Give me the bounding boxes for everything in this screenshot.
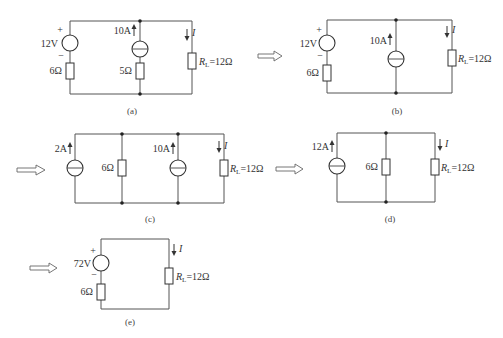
load-resistor-icon <box>188 53 196 69</box>
circuit-a-loop <box>70 21 192 94</box>
voltage-source-label: 12V <box>300 38 318 49</box>
load-resistor-icon <box>165 268 173 284</box>
arrowhead-icon <box>438 146 443 151</box>
resistor-label: 6Ω <box>307 67 319 78</box>
load-label: RL=12Ω <box>229 163 263 176</box>
transition-arrow-icon <box>17 165 45 175</box>
arrowhead-icon <box>132 24 137 29</box>
resistor-icon <box>382 159 390 175</box>
load-resistor-icon <box>220 160 228 176</box>
current-source-label: 10A <box>153 143 171 154</box>
caption-e: (e) <box>125 317 135 327</box>
node-dot <box>176 132 180 136</box>
node-dot <box>138 19 142 23</box>
current-label: I <box>178 243 183 254</box>
load-resistor-icon <box>448 50 456 66</box>
arrowhead-icon <box>330 140 335 145</box>
caption-d: (d) <box>385 214 396 224</box>
load-resistor-icon <box>431 159 439 175</box>
resistor-icon <box>323 65 331 81</box>
arrowhead-icon <box>68 142 73 147</box>
resistor-label: 5Ω <box>120 65 132 76</box>
node-dot <box>176 201 180 205</box>
arrowhead-icon <box>445 33 450 38</box>
arrowhead-icon <box>388 33 393 38</box>
load-label: RL=12Ω <box>457 53 491 66</box>
node-dot <box>384 131 388 135</box>
circuit-a: + − 12V 6Ω 10A 5Ω I RL=12Ω (a) <box>41 19 233 116</box>
caption-b: (b) <box>392 106 403 116</box>
resistor-label: 6Ω <box>81 286 93 297</box>
circuit-b: + − 12V 6Ω 10A I RL=12Ω (b) <box>300 18 492 116</box>
load-label: RL=12Ω <box>198 56 232 69</box>
arrowhead-icon <box>172 251 177 256</box>
plus-sign: + <box>57 24 63 35</box>
circuit-transformation-diagram: + − 12V 6Ω 10A 5Ω I RL=12Ω (a) + − 12V <box>0 0 503 338</box>
caption-c: (c) <box>145 214 155 224</box>
node-dot <box>138 92 142 96</box>
voltage-source-label: 12V <box>41 38 59 49</box>
arrowhead-icon <box>171 142 176 147</box>
circuit-c-loop <box>75 134 224 203</box>
arrowhead-icon <box>185 36 190 41</box>
plus-sign: + <box>316 24 322 35</box>
node-dot <box>120 132 124 136</box>
circuit-e: + − 72V 6Ω I RL=12Ω (e) <box>74 239 210 327</box>
resistor-label: 6Ω <box>50 65 62 76</box>
node-dot <box>120 201 124 205</box>
minus-sign: − <box>58 50 64 61</box>
voltage-source-label: 72V <box>74 258 92 269</box>
arrowhead-icon <box>217 148 222 153</box>
transition-arrow-icon <box>276 164 303 174</box>
minus-sign: − <box>317 50 323 61</box>
node-dot <box>384 200 388 204</box>
circuit-e-loop <box>101 239 169 309</box>
load-label: RL=12Ω <box>175 271 209 284</box>
load-label: RL=12Ω <box>440 162 474 175</box>
current-label: I <box>451 24 456 35</box>
circuit-d: 12A 6Ω I RL=12Ω (d) <box>312 131 475 224</box>
voltage-source-icon <box>319 35 335 51</box>
resistor-label: 6Ω <box>102 162 114 173</box>
circuit-c: 2A 6Ω 10A I RL=12Ω (c) <box>55 132 264 224</box>
current-source-label: 12A <box>312 141 330 152</box>
resistor-label: 6Ω <box>366 161 378 172</box>
current-label: I <box>444 138 449 149</box>
transition-arrow-icon <box>258 51 282 61</box>
current-source-label: 10A <box>114 25 132 36</box>
current-source-label: 10A <box>370 35 388 46</box>
minus-sign: − <box>91 269 97 280</box>
caption-a: (a) <box>127 106 137 116</box>
resistor-icon <box>97 284 105 300</box>
voltage-source-icon <box>62 35 78 51</box>
current-label: I <box>191 27 196 38</box>
plus-sign: + <box>90 245 96 256</box>
resistor-icon <box>118 160 126 176</box>
transition-arrow-icon <box>30 263 57 273</box>
current-label: I <box>223 140 228 151</box>
resistor-icon <box>66 63 74 79</box>
node-dot <box>394 91 398 95</box>
current-source-label: 2A <box>55 143 68 154</box>
resistor-icon <box>136 63 144 79</box>
node-dot <box>394 18 398 22</box>
